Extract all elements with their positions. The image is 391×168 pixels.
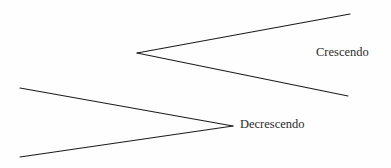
decrescendo-hairpin-icon [20,88,233,157]
decrescendo-lower-arm [20,126,233,157]
crescendo-lower-arm [137,53,348,96]
decrescendo-label: Decrescendo [240,118,305,131]
hairpin-canvas [0,0,391,168]
crescendo-label: Crescendo [316,46,369,59]
decrescendo-upper-arm [20,88,233,126]
hairpin-diagram: Crescendo Decrescendo [0,0,391,168]
